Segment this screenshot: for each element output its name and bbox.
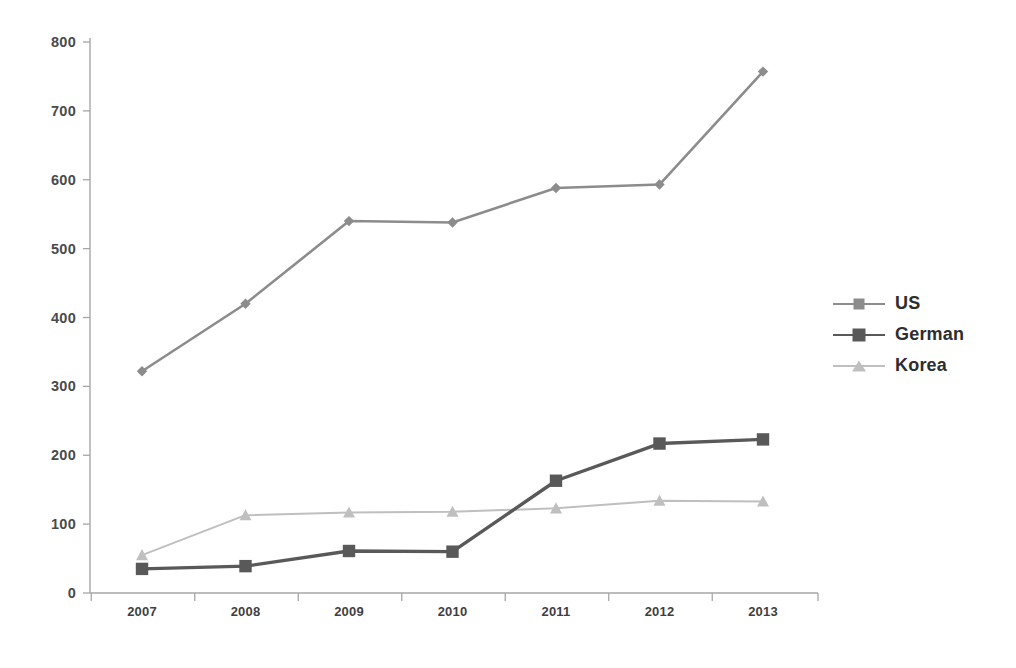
legend-key-diamond-icon bbox=[833, 292, 885, 316]
data-point-marker bbox=[653, 437, 665, 449]
legend-label-us: US bbox=[885, 293, 920, 314]
x-axis-tick-label: 2013 bbox=[728, 604, 798, 619]
x-axis-tick-label: 2012 bbox=[625, 604, 695, 619]
data-point-marker bbox=[551, 183, 561, 193]
y-axis-tick-label: 300 bbox=[20, 378, 76, 394]
legend-label-german: German bbox=[885, 324, 964, 345]
y-axis-tick-label: 600 bbox=[20, 172, 76, 188]
x-axis-tick-label: 2007 bbox=[107, 604, 177, 619]
diamond-marker-icon bbox=[854, 298, 865, 309]
triangle-marker-icon bbox=[852, 360, 866, 371]
legend-item-korea[interactable]: Korea bbox=[833, 350, 964, 381]
square-marker-icon bbox=[853, 328, 866, 341]
y-axis-tick-label: 0 bbox=[20, 585, 76, 601]
data-point-marker bbox=[136, 563, 148, 575]
y-axis-tick-label: 800 bbox=[20, 34, 76, 50]
chart-legend: US German Korea bbox=[833, 288, 964, 381]
data-point-marker bbox=[446, 545, 458, 557]
data-point-marker bbox=[343, 545, 355, 557]
data-point-marker bbox=[757, 433, 769, 445]
x-axis-tick-label: 2011 bbox=[521, 604, 591, 619]
legend-item-us[interactable]: US bbox=[833, 288, 964, 319]
data-point-marker bbox=[447, 217, 457, 227]
legend-key-square-icon bbox=[833, 323, 885, 347]
x-axis-tick-label: 2010 bbox=[418, 604, 488, 619]
legend-label-korea: Korea bbox=[885, 355, 947, 376]
legend-item-german[interactable]: German bbox=[833, 319, 964, 350]
data-point-marker bbox=[550, 475, 562, 487]
legend-key-triangle-icon bbox=[833, 354, 885, 378]
data-point-marker bbox=[136, 549, 148, 560]
x-axis-tick-label: 2008 bbox=[211, 604, 281, 619]
y-axis-tick-label: 500 bbox=[20, 241, 76, 257]
line-chart: 0100200300400500600700800 20072008200920… bbox=[0, 0, 1016, 668]
y-axis-tick-label: 100 bbox=[20, 516, 76, 532]
y-axis-tick-label: 700 bbox=[20, 103, 76, 119]
data-point-marker bbox=[239, 560, 251, 572]
x-axis-tick-label: 2009 bbox=[314, 604, 384, 619]
series-german bbox=[136, 433, 769, 575]
series-us bbox=[137, 66, 768, 376]
y-axis-tick-label: 400 bbox=[20, 310, 76, 326]
y-axis-tick-label: 200 bbox=[20, 447, 76, 463]
